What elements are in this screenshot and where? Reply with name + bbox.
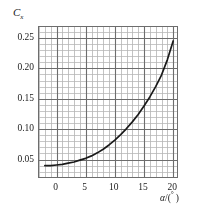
y-axis-label: Cx: [13, 6, 23, 21]
y-axis-label-subscript: x: [20, 13, 23, 21]
chart-figure: Cx 0.050.100.150.200.25 05101520 α/(° ): [0, 0, 210, 218]
x-tick-label: 0: [46, 182, 66, 192]
x-axis-label: α/(° ): [160, 190, 179, 203]
y-tick-label: 0.25: [2, 32, 34, 42]
x-tick-label: 10: [104, 182, 124, 192]
data-curve: [45, 41, 173, 166]
plot-area: [38, 26, 178, 178]
curve-layer: [39, 27, 178, 178]
y-tick-label: 0.20: [2, 62, 34, 72]
x-axis-label-unit: °: [171, 190, 174, 199]
x-tick-label: 15: [133, 182, 153, 192]
y-tick-label: 0.10: [2, 123, 34, 133]
y-tick-label: 0.15: [2, 93, 34, 103]
x-axis-label-symbol: α: [160, 193, 165, 203]
x-tick-label: 5: [75, 182, 95, 192]
y-tick-label: 0.05: [2, 154, 34, 164]
